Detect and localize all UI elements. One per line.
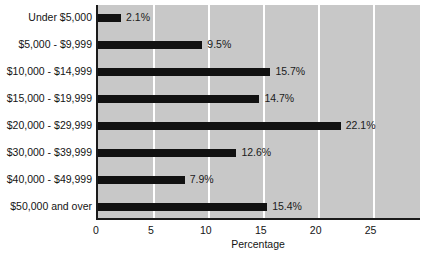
y-axis-label: $50,000 and over [0,201,92,212]
x-tick-label: 25 [356,224,386,236]
y-axis-label: $30,000 - $39,999 [0,147,92,158]
gridline [153,5,155,218]
bar [98,122,341,130]
y-axis-label: $10,000 - $14,999 [0,66,92,77]
x-tick-label: 10 [191,224,221,236]
bar [98,68,270,76]
x-axis-title: Percentage [96,238,420,250]
gridline [373,5,375,218]
y-axis-label: $40,000 - $49,999 [0,174,92,185]
x-tick-label: 0 [81,224,111,236]
y-axis-label: $5,000 - $9,999 [0,39,92,50]
bar-value-label: 22.1% [346,120,376,131]
bar [98,203,267,211]
gridline [318,5,320,218]
y-axis-category-labels: Under $5,000$5,000 - $9,999$10,000 - $14… [0,5,92,220]
bar-value-label: 2.1% [126,12,150,23]
y-axis-label: $20,000 - $29,999 [0,120,92,131]
bar-value-label: 7.9% [190,174,214,185]
bar [98,14,121,22]
x-tick-label: 15 [246,224,276,236]
bar [98,41,202,49]
gridline [208,5,210,218]
bar-value-label: 12.6% [241,147,271,158]
bar [98,149,236,157]
bar-value-label: 15.7% [275,66,305,77]
gridline [263,5,265,218]
x-tick-label: 5 [136,224,166,236]
bar [98,176,185,184]
bar-value-label: 9.5% [207,39,231,50]
bar-chart: Under $5,000$5,000 - $9,999$10,000 - $14… [0,0,424,260]
bar-value-label: 14.7% [264,93,294,104]
plot-area: 2.1%9.5%15.7%14.7%22.1%12.6%7.9%15.4% [96,5,420,220]
bar-value-label: 15.4% [272,201,302,212]
y-axis-label: Under $5,000 [0,12,92,23]
x-tick-label: 20 [301,224,331,236]
bar [98,95,259,103]
y-axis-label: $15,000 - $19,999 [0,93,92,104]
